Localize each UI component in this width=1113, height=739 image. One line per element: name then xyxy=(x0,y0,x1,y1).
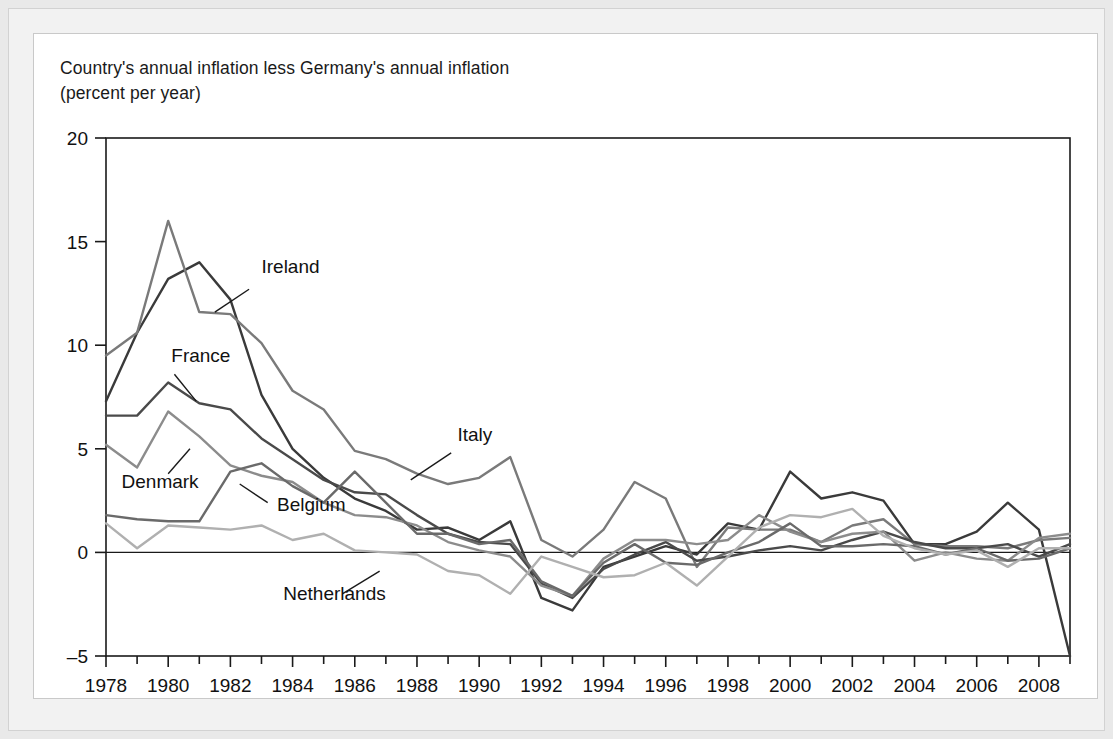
x-axis-tick-label: 1988 xyxy=(396,675,438,696)
y-axis-tick-label: 5 xyxy=(77,439,88,460)
x-axis-tick-label: 1980 xyxy=(147,675,189,696)
leader-line-italy xyxy=(411,453,451,480)
y-axis-tick-label: 10 xyxy=(67,335,88,356)
x-axis-tick-label: 1998 xyxy=(707,675,749,696)
x-axis-tick-label: 2006 xyxy=(956,675,998,696)
line-chart-plot: –505101520197819801982198419861988199019… xyxy=(34,34,1097,698)
y-axis-tick-label: 15 xyxy=(67,232,88,253)
leader-line-ireland xyxy=(215,289,249,312)
series-line-netherlands xyxy=(106,509,1070,594)
x-axis-tick-label: 1986 xyxy=(334,675,376,696)
y-axis-tick-label: –5 xyxy=(67,646,88,667)
x-axis-tick-label: 1996 xyxy=(645,675,687,696)
leader-line-denmark xyxy=(168,449,190,474)
series-line-denmark xyxy=(106,412,1070,596)
series-label-france: France xyxy=(171,345,230,366)
series-line-italy xyxy=(106,221,1070,567)
x-axis-tick-label: 2004 xyxy=(893,675,936,696)
x-axis-tick-label: 1992 xyxy=(520,675,562,696)
figure-panel: Country's annual inflation less Germany'… xyxy=(33,33,1098,699)
figure-middle-frame: Country's annual inflation less Germany'… xyxy=(8,8,1105,731)
y-axis-tick-label: 0 xyxy=(77,542,88,563)
series-line-ireland xyxy=(106,262,1070,656)
x-axis-tick-label: 1982 xyxy=(209,675,251,696)
x-axis-tick-label: 1978 xyxy=(85,675,127,696)
y-axis-tick-label: 20 xyxy=(67,128,88,149)
figure-outer-frame: Country's annual inflation less Germany'… xyxy=(0,0,1113,739)
series-label-belgium: Belgium xyxy=(277,494,346,515)
series-label-italy: Italy xyxy=(457,424,492,445)
series-label-denmark: Denmark xyxy=(122,471,200,492)
leader-line-belgium xyxy=(240,484,268,503)
x-axis-tick-label: 1984 xyxy=(271,675,314,696)
x-axis-tick-label: 2000 xyxy=(769,675,811,696)
x-axis-tick-label: 1990 xyxy=(458,675,500,696)
x-axis-tick-label: 2002 xyxy=(831,675,873,696)
series-label-netherlands: Netherlands xyxy=(283,583,385,604)
x-axis-tick-label: 1994 xyxy=(582,675,625,696)
series-line-france xyxy=(106,383,1070,598)
x-axis-tick-label: 2008 xyxy=(1018,675,1060,696)
series-label-ireland: Ireland xyxy=(261,256,319,277)
